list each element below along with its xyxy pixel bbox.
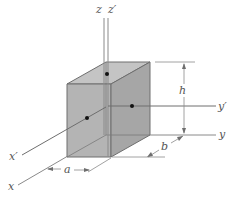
dot-side-face: [130, 104, 134, 108]
a-extension-right: [88, 158, 111, 172]
b-arrow-bottom-icon: [147, 152, 153, 157]
b-dimension-label: b: [161, 141, 168, 152]
z-axis-label: z: [96, 4, 102, 15]
b-arrow-top-icon: [177, 136, 183, 141]
dot-front-face: [85, 116, 89, 120]
block-figure: [0, 0, 233, 203]
y-prime-axis-label: y′: [218, 101, 227, 112]
diagram-canvas: z z′ y′ y x′ x h b a: [0, 0, 233, 203]
dot-top-face: [105, 72, 109, 76]
a-dimension-label: a: [64, 164, 71, 175]
y-axis-label: y: [219, 129, 225, 140]
h-dimension-label: h: [179, 85, 186, 96]
h-arrow-bottom-icon: [182, 128, 186, 134]
z-prime-axis-label: z′: [108, 4, 116, 15]
x-axis-label: x: [8, 181, 14, 192]
x-prime-axis-label: x′: [9, 151, 18, 162]
h-arrow-top-icon: [182, 63, 186, 69]
